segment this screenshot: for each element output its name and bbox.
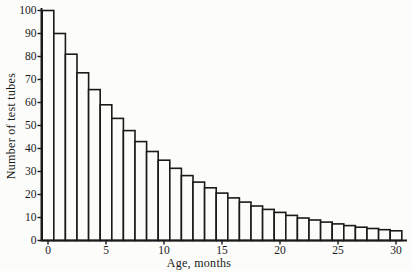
test-tube-decay-figure: 0102030405060708090100051015202530 Numbe… — [0, 0, 412, 271]
x-tick-label-25: 25 — [332, 244, 344, 256]
x-tick-label-0: 0 — [45, 244, 51, 256]
bar-month-25 — [332, 224, 344, 241]
y-tick-label-20: 20 — [25, 188, 37, 200]
bar-month-17 — [239, 202, 251, 240]
bar-month-6 — [112, 118, 124, 240]
y-tick-label-10: 10 — [25, 211, 37, 223]
bar-month-16 — [228, 198, 240, 241]
y-tick-label-60: 60 — [25, 96, 37, 108]
bar-month-3 — [77, 73, 89, 241]
x-tick-label-5: 5 — [103, 244, 109, 256]
x-tick-label-10: 10 — [158, 244, 170, 256]
bar-month-19 — [263, 209, 275, 240]
bar-month-21 — [286, 215, 298, 240]
y-tick-label-40: 40 — [25, 142, 37, 154]
bar-month-20 — [274, 212, 286, 240]
bar-month-11 — [170, 168, 182, 240]
bar-month-8 — [135, 142, 147, 241]
bar-month-29 — [379, 230, 391, 241]
y-tick-label-70: 70 — [25, 73, 37, 85]
bar-month-4 — [89, 90, 101, 241]
y-tick-label-90: 90 — [25, 27, 37, 39]
x-axis-title: Age, months — [167, 256, 232, 271]
bar-month-15 — [216, 193, 228, 240]
bar-month-2 — [65, 54, 77, 240]
bar-month-23 — [309, 220, 321, 241]
bar-month-10 — [158, 160, 170, 240]
x-tick-label-15: 15 — [216, 244, 228, 256]
bar-month-1 — [54, 34, 66, 241]
bar-month-26 — [344, 226, 356, 241]
y-tick-label-0: 0 — [31, 234, 37, 246]
bar-month-18 — [251, 206, 263, 241]
bar-month-14 — [205, 188, 217, 241]
bar-month-24 — [321, 222, 333, 240]
bar-month-30 — [390, 231, 402, 241]
bar-month-12 — [181, 176, 193, 241]
x-tick-label-30: 30 — [390, 244, 402, 256]
bar-month-27 — [355, 227, 367, 240]
y-tick-label-50: 50 — [25, 119, 37, 131]
y-tick-label-30: 30 — [25, 165, 37, 177]
bar-month-13 — [193, 182, 205, 240]
bar-month-22 — [297, 218, 309, 241]
x-tick-label-20: 20 — [274, 244, 286, 256]
y-axis-title: Number of test tubes — [4, 73, 19, 179]
bar-month-28 — [367, 229, 379, 241]
y-tick-label-100: 100 — [19, 4, 37, 16]
bar-month-7 — [123, 131, 135, 241]
bar-month-9 — [147, 152, 159, 241]
bar-month-0 — [42, 11, 54, 241]
bar-month-5 — [100, 105, 112, 241]
chart-canvas: 0102030405060708090100051015202530 — [0, 0, 412, 271]
y-tick-label-80: 80 — [25, 50, 37, 62]
